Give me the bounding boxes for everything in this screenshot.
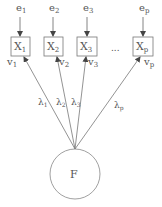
error-label-1: e1 [16,3,26,15]
resid-label-3: v3 [88,57,98,69]
indicator-label-p: Xp [136,41,148,54]
indicator-label-3: X3 [80,41,92,54]
loading-arrow-1 [24,57,75,149]
loading-label-1: λ1 [38,98,48,108]
resid-label-p: vp [144,57,154,69]
factor-diagram: e1 e2 e3 ep X1 X2 X3 Xp ... v1 v2 v3 vp … [0,0,162,207]
factor-label: F [70,169,78,180]
resid-label-2: v2 [59,57,69,69]
indicator-label-1: X1 [14,41,26,54]
error-label-p: ep [139,3,149,15]
error-label-2: e2 [49,3,59,15]
resid-label-1: v1 [7,57,17,69]
ellipsis: ... [111,44,120,53]
loading-label-p: λp [114,101,124,111]
indicator-label-2: X2 [47,41,59,54]
error-label-3: e3 [83,3,93,15]
loading-label-2: λ2 [56,98,66,108]
loading-label-3: λ3 [71,98,81,108]
diagram-graphics [0,0,162,207]
